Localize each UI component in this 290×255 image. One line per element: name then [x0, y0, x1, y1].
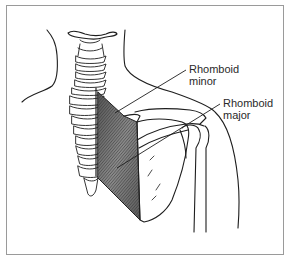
scapula [137, 119, 189, 222]
atlas-vertebra [68, 31, 117, 39]
label-rhomboid-minor: Rhomboid minor [189, 63, 239, 87]
label-rhomboid-major-line2: major [223, 109, 273, 121]
humerus [182, 125, 200, 232]
label-rhomboid-minor-line1: Rhomboid [189, 63, 239, 75]
neck-outline-right [124, 30, 239, 228]
label-rhomboid-major-line1: Rhomboid [223, 97, 273, 109]
leader-line-rhomboid-minor [115, 70, 186, 113]
neck-outline-left [22, 30, 57, 102]
clavicle [135, 109, 206, 124]
label-rhomboid-major: Rhomboid major [223, 97, 273, 121]
label-rhomboid-minor-line2: minor [189, 75, 239, 87]
